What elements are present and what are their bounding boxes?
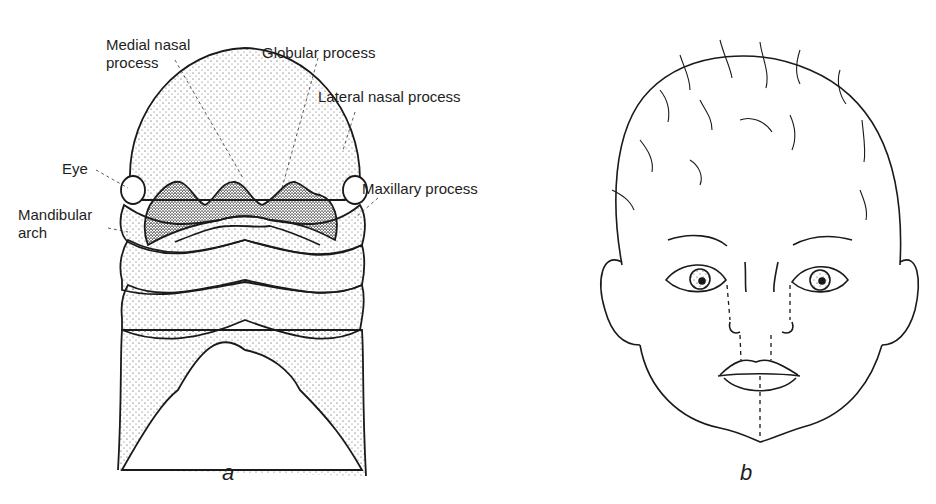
label-medial-nasal-process: Medial nasal process [106,36,190,72]
panel-letter-b: b [740,460,752,486]
label-globular-process: Globular process [262,44,375,62]
label-eye: Eye [62,160,88,178]
label-medial-nasal-line1: Medial nasal [106,36,190,54]
label-medial-nasal-line2: process [106,54,190,72]
label-maxillary-process: Maxillary process [362,180,478,198]
label-lateral-nasal-process: Lateral nasal process [318,88,461,106]
embryo-head-diagram [118,48,367,476]
figure-canvas [0,0,936,504]
label-mandibular-arch: Mandibular arch [18,206,92,242]
panel-letter-a: a [222,460,234,486]
label-mandibular-line2: arch [18,224,92,242]
hair-strokes [612,40,867,220]
label-mandibular-line1: Mandibular [18,206,92,224]
